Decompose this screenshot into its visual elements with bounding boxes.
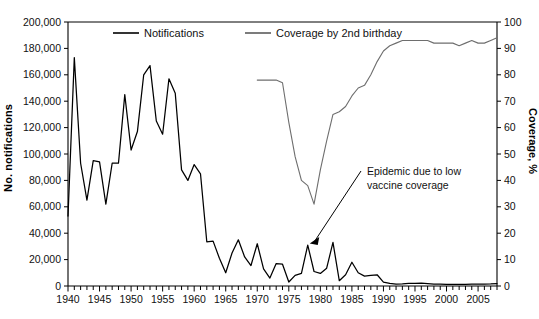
legend-label-coverage: Coverage by 2nd birthday <box>276 27 402 39</box>
chart-container: No. notifications Coverage, % 020,00040,… <box>0 0 539 319</box>
x-axis-tick-label: 1940 <box>56 293 80 305</box>
x-axis-tick-label: 2000 <box>435 293 459 305</box>
y-axis-right-tick-label: 0 <box>504 280 510 292</box>
y-axis-left-tick-label: 180,000 <box>23 42 61 54</box>
annotation-text-line: vaccine coverage <box>367 179 449 191</box>
y-axis-right-tick-label: 30 <box>504 200 516 212</box>
x-axis-tick-label: 1970 <box>246 293 270 305</box>
y-axis-left-tick-label: 40,000 <box>29 227 61 239</box>
x-axis-tick-label: 1985 <box>340 293 364 305</box>
y-axis-right-tick-label: 80 <box>504 68 516 80</box>
x-axis-tick-label: 1955 <box>151 293 175 305</box>
chart-plot: 020,00040,00060,00080,000100,000120,0001… <box>0 0 539 319</box>
y-axis-right-tick-label: 40 <box>504 174 516 186</box>
x-axis-tick-label: 1950 <box>119 293 143 305</box>
y-axis-left-tick-label: 100,000 <box>23 148 61 160</box>
y-axis-left-tick-label: 60,000 <box>29 200 61 212</box>
annotation-arrow-head <box>310 237 320 245</box>
x-axis-tick-label: 1990 <box>372 293 396 305</box>
legend-layer: NotificationsCoverage by 2nd birthday <box>113 27 402 39</box>
y-axis-left-tick-label: 200,000 <box>23 16 61 28</box>
y-axis-left-tick-label: 80,000 <box>29 174 61 186</box>
y-axis-right-tick-label: 100 <box>504 16 522 28</box>
x-axis-tick-label: 2005 <box>466 293 490 305</box>
annotation-text-line: Epidemic due to low <box>367 165 461 177</box>
y-axis-left-tick-label: 20,000 <box>29 253 61 265</box>
axes-layer: 020,00040,00060,00080,000100,000120,0001… <box>23 16 522 305</box>
annotation-arrow-line <box>315 171 361 241</box>
y-axis-right-tick-label: 20 <box>504 227 516 239</box>
x-axis-tick-label: 1975 <box>277 293 301 305</box>
x-axis-tick-label: 1960 <box>182 293 206 305</box>
y-axis-left-tick-label: 120,000 <box>23 121 61 133</box>
x-axis-tick-label: 1980 <box>309 293 333 305</box>
y-axis-right-tick-label: 10 <box>504 253 516 265</box>
y-axis-left-tick-label: 0 <box>55 280 61 292</box>
y-axis-right-tick-label: 90 <box>504 42 516 54</box>
legend-label-notifications: Notifications <box>144 27 204 39</box>
y-axis-right-tick-label: 50 <box>504 148 516 160</box>
x-axis-tick-label: 1995 <box>403 293 427 305</box>
series-layer <box>68 38 497 285</box>
y-axis-right-tick-label: 70 <box>504 95 516 107</box>
annotation-layer: Epidemic due to lowvaccine coverage <box>310 165 462 245</box>
y-axis-left-tick-label: 140,000 <box>23 95 61 107</box>
x-axis-tick-label: 1965 <box>214 293 238 305</box>
y-axis-left-tick-label: 160,000 <box>23 68 61 80</box>
y-axis-right-tick-label: 60 <box>504 121 516 133</box>
x-axis-tick-label: 1945 <box>88 293 112 305</box>
